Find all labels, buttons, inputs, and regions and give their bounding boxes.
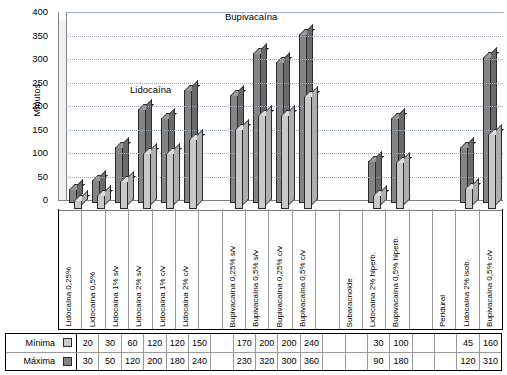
table-cell: 200 bbox=[256, 334, 278, 352]
x-axis-label-text: Lidocaína 0,5% bbox=[88, 272, 100, 327]
x-axis-label-3: Lidocaína 2% s/v bbox=[129, 209, 152, 329]
y-tick-label: 50 bbox=[18, 172, 48, 181]
bar-group bbox=[181, 21, 204, 209]
x-axis-label-13: Lidocaína 2% hiperb. bbox=[363, 209, 386, 329]
bar-side-face bbox=[381, 185, 387, 205]
bar-group bbox=[480, 21, 503, 209]
x-axis-label-text: Bupivacaína 0,5% c/v bbox=[485, 250, 497, 327]
bar-side-face bbox=[266, 105, 272, 205]
table-cell: 150 bbox=[189, 334, 211, 352]
bar-side-face bbox=[128, 171, 134, 205]
x-axis-label-12: Subaracnoide bbox=[340, 209, 363, 329]
x-axis-label-18: Bupivacaína 0,5% c/v bbox=[480, 209, 502, 329]
chart-root: Minutos 400350300250200150100500 Lidocaí… bbox=[0, 0, 507, 375]
x-axis-label-text: Bupivacaína 0,5% hiperb. bbox=[391, 236, 403, 327]
x-axis-label-text: Lidocaína 1% c/v bbox=[158, 266, 170, 327]
legend-swatch-dark bbox=[63, 357, 72, 366]
table-cell bbox=[435, 353, 457, 371]
x-axis-label-5: Lidocaína 2% c/v bbox=[176, 209, 199, 329]
grid-line bbox=[66, 106, 503, 107]
x-axis-spacer-15 bbox=[410, 209, 433, 329]
x-axis-label-text: Peridural bbox=[438, 295, 450, 327]
bar-group bbox=[112, 21, 135, 209]
y-tick-label: 0 bbox=[18, 195, 48, 204]
bar-side-face bbox=[82, 190, 88, 205]
x-axis-label-text: Bupivacaína 0,25% c/v bbox=[275, 246, 287, 327]
table-cell: 230 bbox=[234, 353, 256, 371]
table-cell bbox=[346, 353, 368, 371]
bar-side-face bbox=[243, 119, 249, 205]
bar-side-face bbox=[174, 143, 180, 205]
bar-minima bbox=[465, 188, 473, 209]
bar-side-face bbox=[289, 105, 295, 205]
table-row: Mínima2030601201201501702002002403010045… bbox=[6, 334, 501, 353]
table-cell: 120 bbox=[167, 334, 189, 352]
y-tick-label: 150 bbox=[18, 125, 48, 134]
bar-group bbox=[158, 21, 181, 209]
x-axis-label-1: Lidocaína 0,5% bbox=[82, 209, 105, 329]
table-row-label: Mínima bbox=[6, 334, 59, 352]
table-cell: 30 bbox=[77, 353, 99, 371]
bar-series-container bbox=[58, 12, 503, 209]
x-axis-label-16: Peridural bbox=[433, 209, 456, 329]
x-axis-label-10: Bupivacaína 0,5% c/v bbox=[293, 209, 316, 329]
table-cell: 240 bbox=[301, 334, 323, 352]
table-cell: 120 bbox=[122, 353, 144, 371]
y-axis-ticks: 400350300250200150100500 bbox=[16, 0, 48, 200]
bar-side-face bbox=[151, 143, 157, 205]
bar-group bbox=[388, 21, 411, 209]
x-axis-label-text: Lidocaína 2% c/v bbox=[181, 266, 193, 327]
legend-swatch-cell bbox=[59, 353, 77, 371]
table-cell: 50 bbox=[99, 353, 121, 371]
bar-minima bbox=[74, 200, 82, 209]
y-tick-label: 400 bbox=[18, 7, 48, 16]
bar-group bbox=[89, 21, 112, 209]
bar-side-face bbox=[496, 124, 502, 205]
y-tick-label: 200 bbox=[18, 101, 48, 110]
y-tick-label: 250 bbox=[18, 78, 48, 87]
bar-side-face bbox=[197, 129, 203, 206]
table-cell bbox=[346, 334, 368, 352]
table-cell: 180 bbox=[390, 353, 412, 371]
bar-group bbox=[250, 21, 273, 209]
x-axis-label-2: Lidocaína 1% s/v bbox=[106, 209, 129, 329]
bar-side-face bbox=[473, 178, 479, 205]
bar-side-face bbox=[312, 86, 318, 205]
x-axis-label-text: Bupivacaína 0,25% s/v bbox=[228, 246, 240, 327]
table-cell: 30 bbox=[99, 334, 121, 352]
table-cell: 310 bbox=[480, 353, 501, 371]
x-axis-label-text: Lidocaína 1% s/v bbox=[111, 266, 123, 327]
y-tick-label: 100 bbox=[18, 148, 48, 157]
bar-minima bbox=[281, 115, 289, 209]
x-axis-spacer-6 bbox=[199, 209, 222, 329]
bar-side-face bbox=[404, 152, 410, 205]
table-cell: 20 bbox=[77, 334, 99, 352]
y-tick-label: 350 bbox=[18, 31, 48, 40]
table-cell: 300 bbox=[278, 353, 300, 371]
table-cell: 240 bbox=[189, 353, 211, 371]
bar-minima bbox=[120, 181, 128, 209]
bar-group bbox=[135, 21, 158, 209]
table-row-label: Máxima bbox=[6, 353, 59, 371]
table-cell: 90 bbox=[368, 353, 390, 371]
table-cell: 60 bbox=[122, 334, 144, 352]
x-axis-label-text: Lidocaína 2% s/v bbox=[134, 266, 146, 327]
x-axis-spacer-11 bbox=[316, 209, 339, 329]
x-axis-label-text: Bupivacaína 0,5% s/v bbox=[251, 250, 263, 327]
x-axis-label-9: Bupivacaína 0,25% c/v bbox=[269, 209, 292, 329]
table-cell: 200 bbox=[144, 353, 166, 371]
x-axis-label-8: Bupivacaína 0,5% s/v bbox=[246, 209, 269, 329]
table-cell bbox=[323, 353, 345, 371]
bar-minima bbox=[166, 153, 174, 209]
x-axis-label-columns: Lidocaína 0,25%Lidocaína 0,5%Lidocaína 1… bbox=[58, 209, 503, 330]
grid-line bbox=[66, 36, 503, 37]
bar-group bbox=[296, 21, 319, 209]
bar-minima bbox=[258, 115, 266, 209]
table-cell: 30 bbox=[368, 334, 390, 352]
x-axis-label-text: Lidocaína 2% isob. bbox=[462, 259, 474, 327]
table-cell: 120 bbox=[144, 334, 166, 352]
bar-minima bbox=[143, 153, 151, 209]
x-axis-label-4: Lidocaína 1% c/v bbox=[153, 209, 176, 329]
bar-minima bbox=[488, 134, 496, 209]
table-cell: 120 bbox=[457, 353, 479, 371]
